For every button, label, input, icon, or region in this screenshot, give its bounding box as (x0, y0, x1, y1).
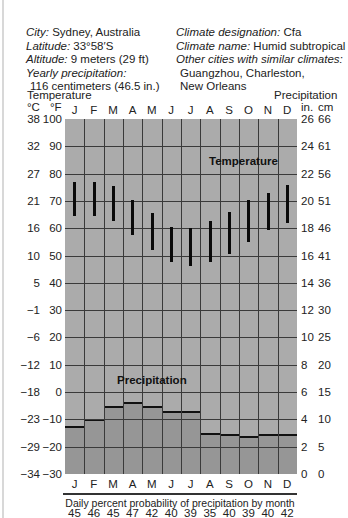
month-label-top: J (162, 104, 181, 116)
temperature-range-bar (228, 212, 231, 254)
month-label-top: M (104, 104, 123, 116)
probability-value: 40 (220, 507, 239, 518)
precipitation-bar (278, 434, 297, 474)
fahrenheit-tick: 0 (34, 386, 62, 398)
cm-tick: 5 (318, 441, 342, 453)
grid-line-vertical (239, 119, 240, 474)
fahrenheit-tick: 20 (34, 331, 62, 343)
month-label-bottom: O (239, 478, 258, 490)
grid-line-vertical (123, 119, 124, 474)
grid-line-vertical (142, 119, 143, 474)
cm-tick: 61 (318, 140, 342, 152)
fahrenheit-tick: 60 (34, 222, 62, 234)
separator-line (63, 493, 297, 495)
grid-line-vertical (220, 119, 221, 474)
temperature-range-bar (93, 182, 96, 216)
climograph-plot: TemperaturePrecipitation (65, 119, 297, 474)
month-label-bottom: D (278, 478, 297, 490)
probability-value: 47 (123, 507, 142, 518)
cm-tick: 51 (318, 195, 342, 207)
probability-value: 42 (142, 507, 161, 518)
temperature-range-bar (112, 186, 115, 222)
precipitation-bar (239, 436, 258, 474)
month-label-top: M (142, 104, 161, 116)
temperature-range-bar (247, 200, 250, 242)
fahrenheit-tick: 40 (34, 277, 62, 289)
grid-line-vertical (84, 119, 85, 474)
climate-designation-label: Climate designation: (176, 26, 280, 38)
cm-tick: 20 (318, 359, 342, 371)
grid-line-vertical (258, 119, 259, 474)
month-label-bottom: N (258, 478, 277, 490)
probability-value: 45 (104, 507, 123, 518)
month-label-bottom: M (104, 478, 123, 490)
month-label-top: J (65, 104, 84, 116)
month-label-top: D (278, 104, 297, 116)
precipitation-bar (142, 406, 161, 474)
probability-value: 40 (162, 507, 181, 518)
cm-tick: 46 (318, 222, 342, 234)
grid-line-vertical (278, 119, 279, 474)
precipitation-bar (220, 434, 239, 474)
cm-tick: 36 (318, 277, 342, 289)
month-label-bottom: J (162, 478, 181, 490)
fahrenheit-unit: °F (50, 101, 62, 113)
month-label-bottom: F (84, 478, 103, 490)
month-label-bottom: A (200, 478, 219, 490)
altitude-label: Altitude: (26, 53, 68, 65)
probability-value: 40 (258, 507, 277, 518)
fahrenheit-tick: 30 (34, 304, 62, 316)
grid-line-vertical (104, 119, 105, 474)
temperature-range-bar (189, 228, 192, 266)
latitude-label: Latitude: (26, 40, 70, 52)
month-label-top: A (200, 104, 219, 116)
month-label-top: J (181, 104, 200, 116)
climate-designation-value: Cfa (283, 26, 301, 38)
city-value: Sydney, Australia (52, 26, 140, 38)
climate-name-label: Climate name: (176, 40, 250, 52)
precipitation-bar (104, 406, 123, 474)
similar-cities-label: Other cities with similar climates: (176, 53, 343, 65)
left-axis-title: Temperature (27, 89, 92, 101)
fahrenheit-tick: 90 (34, 140, 62, 152)
precipitation-label: Precipitation (117, 374, 187, 386)
temperature-range-bar (73, 182, 76, 216)
inch-unit: in. (301, 101, 313, 113)
cm-tick: 41 (318, 250, 342, 262)
fahrenheit-tick: −10 (34, 413, 62, 425)
precipitation-bar (123, 402, 142, 474)
fahrenheit-tick: 100 (34, 113, 62, 125)
temperature-range-bar (170, 227, 173, 263)
month-label-bottom: J (65, 478, 84, 490)
month-label-bottom: M (142, 478, 161, 490)
probability-value: 46 (84, 507, 103, 518)
yearly-precip-label: Yearly precipitation: (26, 67, 126, 79)
temperature-label: Temperature (209, 155, 278, 167)
cm-tick: 25 (318, 331, 342, 343)
cm-tick: 15 (318, 386, 342, 398)
precipitation-bar (258, 434, 277, 474)
climate-info: Climate designation: Cfa Climate name: H… (176, 26, 345, 94)
temperature-range-bar (286, 185, 289, 223)
month-label-top: O (239, 104, 258, 116)
month-label-bottom: S (220, 478, 239, 490)
celsius-unit: °C (27, 101, 40, 113)
grid-line-vertical (162, 119, 163, 474)
cm-tick: 30 (318, 304, 342, 316)
grid-line-vertical (181, 119, 182, 474)
page-edge-line (2, 0, 4, 518)
temperature-range-bar (151, 213, 154, 250)
fahrenheit-tick: −30 (34, 468, 62, 480)
climate-name-value: Humid subtropical (253, 40, 345, 52)
fahrenheit-tick: 10 (34, 359, 62, 371)
temperature-range-bar (267, 193, 270, 230)
precipitation-bar (65, 426, 84, 474)
month-label-bottom: A (123, 478, 142, 490)
precipitation-bar (181, 411, 200, 474)
month-label-top: F (84, 104, 103, 116)
month-label-top: N (258, 104, 277, 116)
fahrenheit-tick: 50 (34, 250, 62, 262)
fahrenheit-tick: 80 (34, 168, 62, 180)
probability-value: 45 (65, 507, 84, 518)
temperature-range-bar (131, 200, 134, 236)
